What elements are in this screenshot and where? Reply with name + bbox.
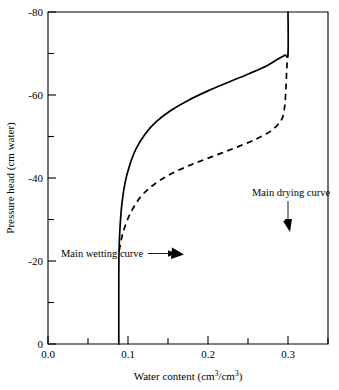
chart-figure: -80 -60 -40 -20 0 0.0 0.1 0.2 0.3 Water — [0, 0, 339, 390]
annotation-main-wetting-curve: Main wetting curve — [61, 248, 176, 259]
x-axis-tick-labels: 0.0 0.1 0.2 0.3 — [41, 348, 295, 360]
y-tick-label: -60 — [28, 89, 43, 101]
x-tick-label: 0.2 — [201, 348, 215, 360]
retention-curve-chart: -80 -60 -40 -20 0 0.0 0.1 0.2 0.3 Water — [0, 0, 339, 390]
axes-box — [48, 12, 328, 344]
y-tick-label: -40 — [28, 172, 43, 184]
x-tick-label: 0.3 — [281, 348, 295, 360]
plot-frame — [48, 12, 328, 344]
x-tick-label: 0.0 — [41, 348, 55, 360]
annotation-label-wetting: Main wetting curve — [61, 248, 144, 259]
x-axis-title: Water content (cm3/cm3) — [134, 369, 243, 383]
y-tick-label: -80 — [28, 6, 43, 18]
main-drying-curve — [119, 54, 288, 251]
main-wetting-curve — [119, 12, 288, 344]
y-axis-title: Pressure head (cm water) — [4, 122, 17, 234]
annotation-label-drying: Main drying curve — [252, 187, 330, 198]
x-tick-label: 0.1 — [121, 348, 135, 360]
y-axis-major-ticks — [48, 12, 56, 344]
y-tick-label: -20 — [28, 255, 43, 267]
y-axis-tick-labels: -80 -60 -40 -20 0 — [28, 6, 43, 350]
